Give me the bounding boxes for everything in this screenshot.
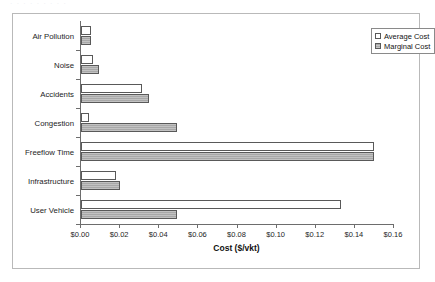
x-axis-title: Cost ($/vkt) (80, 243, 393, 253)
x-axis-tick (197, 224, 198, 228)
x-axis-tick-label: $0.12 (305, 230, 324, 239)
legend-item-average-cost: Average Cost (375, 31, 430, 41)
y-axis-tick (76, 224, 80, 225)
category-label: User Vehicle (30, 205, 74, 214)
x-axis-tick (354, 224, 355, 228)
bar-marginal-cost (81, 123, 177, 132)
y-axis-tick (76, 108, 80, 109)
category-label: Accidents (40, 89, 74, 98)
bar-marginal-cost (81, 152, 374, 161)
x-axis-tick (80, 224, 81, 228)
legend-label-average-cost: Average Cost (384, 32, 429, 41)
x-axis-tick-label: $0.16 (384, 230, 403, 239)
x-axis-tick (315, 224, 316, 228)
scan-artifact-text: · · · · · · · · · (10, 0, 420, 8)
bar-average-cost (81, 55, 93, 64)
x-axis-tick-label: $0.00 (71, 230, 90, 239)
bar-average-cost (81, 84, 142, 93)
bar-marginal-cost (81, 210, 177, 219)
bar-average-cost (81, 142, 374, 151)
chart-frame: $0.00$0.02$0.04$0.06$0.08$0.10$0.12$0.14… (12, 13, 420, 269)
x-axis-tick (276, 224, 277, 228)
legend-item-marginal-cost: Marginal Cost (375, 41, 430, 51)
x-axis-tick-label: $0.04 (149, 230, 168, 239)
bar-marginal-cost (81, 65, 99, 74)
plot-area: $0.00$0.02$0.04$0.06$0.08$0.10$0.12$0.14… (80, 21, 393, 224)
bar-marginal-cost (81, 181, 120, 190)
x-axis-tick (393, 224, 394, 228)
marginal-cost-swatch (375, 43, 381, 49)
y-axis-tick (76, 166, 80, 167)
category-label: Infrastructure (28, 176, 74, 185)
chart-legend: Average Cost Marginal Cost (371, 28, 435, 54)
average-cost-swatch (375, 33, 381, 39)
y-axis-tick (76, 50, 80, 51)
x-axis-tick-label: $0.06 (188, 230, 207, 239)
y-axis-tick (76, 195, 80, 196)
y-axis-tick (76, 79, 80, 80)
bar-average-cost (81, 171, 116, 180)
x-axis-tick (158, 224, 159, 228)
x-axis-tick (237, 224, 238, 228)
bar-marginal-cost (81, 94, 149, 103)
x-axis-tick-label: $0.08 (227, 230, 246, 239)
x-axis-tick-label: $0.02 (110, 230, 129, 239)
category-label: Air Pollution (32, 31, 74, 40)
category-label: Congestion (35, 118, 74, 127)
x-axis-tick-label: $0.14 (344, 230, 363, 239)
bar-average-cost (81, 26, 91, 35)
legend-label-marginal-cost: Marginal Cost (384, 42, 430, 51)
category-label: Noise (54, 60, 74, 69)
category-label: Freeflow Time (25, 147, 74, 156)
x-axis-tick (119, 224, 120, 228)
y-axis-tick (76, 137, 80, 138)
bar-average-cost (81, 113, 89, 122)
x-axis-tick-label: $0.10 (266, 230, 285, 239)
bar-average-cost (81, 200, 341, 209)
bar-marginal-cost (81, 36, 91, 45)
